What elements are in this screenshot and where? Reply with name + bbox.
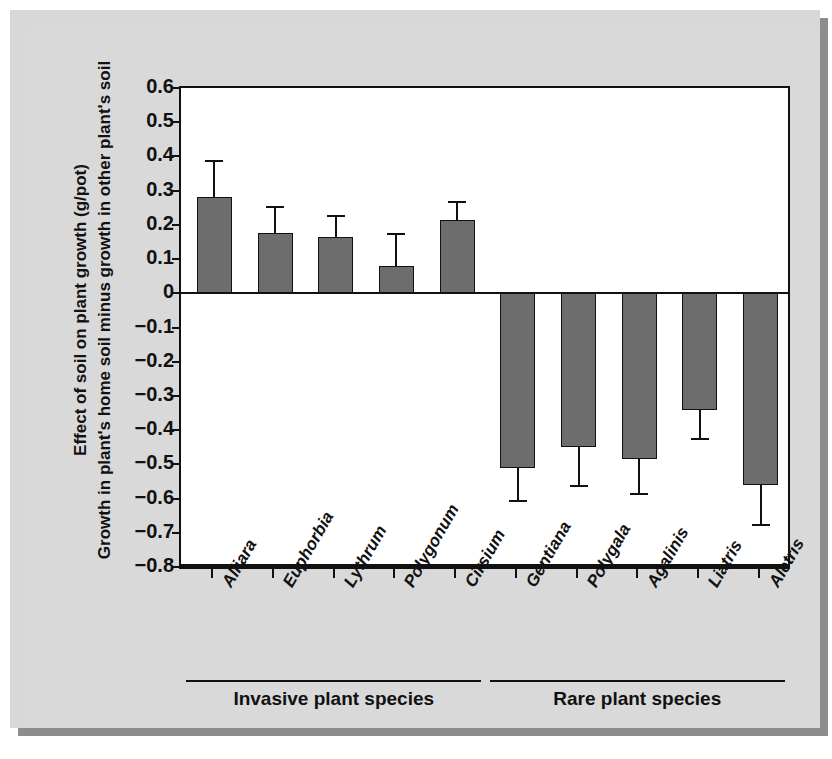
x-axis-tick <box>272 568 274 578</box>
x-axis-tick <box>454 568 456 578</box>
y-axis-title-line1: Effect of soil on plant growth (g/pot) <box>68 50 94 570</box>
bar-liatris <box>682 293 717 409</box>
error-bar-polygonum <box>395 233 397 266</box>
y-axis-tick-label: −0.4 <box>104 417 174 440</box>
error-cap-lythrum <box>327 215 345 217</box>
y-axis-tick-label: 0.6 <box>104 75 174 98</box>
bar-cirsium <box>440 220 475 294</box>
error-bar-agalinis <box>638 459 640 495</box>
y-axis-tick-label: −0.7 <box>104 520 174 543</box>
error-bar-euphorbia <box>274 206 276 233</box>
y-axis-tick-label: −0.2 <box>104 349 174 372</box>
bar-lythrum <box>318 237 353 293</box>
x-axis-tick <box>515 568 517 578</box>
bar-gentiana <box>500 293 535 467</box>
x-axis-tick <box>758 568 760 578</box>
y-axis-tick-label: 0.3 <box>104 178 174 201</box>
bar-euphorbia <box>258 233 293 293</box>
y-axis-tick-label: 0.4 <box>104 143 174 166</box>
error-cap-alliara <box>205 160 223 162</box>
x-axis-tick <box>697 568 699 578</box>
y-axis-tick-label: 0.5 <box>104 109 174 132</box>
error-cap-gentiana <box>509 500 527 502</box>
chart-figure: Effect of soil on plant growth (g/pot) G… <box>20 20 820 720</box>
x-axis-tick <box>393 568 395 578</box>
error-bar-gentiana <box>517 468 519 502</box>
group-label: Rare plant species <box>490 688 785 710</box>
x-axis-tick <box>333 568 335 578</box>
error-cap-polygala <box>570 485 588 487</box>
error-bar-liatris <box>699 410 701 441</box>
bar-polygala <box>561 293 596 447</box>
error-bar-cirsium <box>456 201 458 220</box>
bar-polygonum <box>379 266 414 293</box>
error-bar-aletris <box>760 485 762 526</box>
y-axis-tick-label: −0.3 <box>104 383 174 406</box>
error-cap-agalinis <box>630 493 648 495</box>
group-underline <box>186 680 481 682</box>
error-bar-alliara <box>213 160 215 198</box>
y-axis-tick-label: −0.5 <box>104 451 174 474</box>
y-axis-tick-label: −0.1 <box>104 315 174 338</box>
y-axis-tick-label: 0 <box>104 280 174 303</box>
y-axis-title: Effect of soil on plant growth (g/pot) G… <box>44 50 108 570</box>
bar-alliara <box>197 197 232 293</box>
group-underline <box>490 680 785 682</box>
x-axis-tick <box>211 568 213 578</box>
bar-agalinis <box>622 293 657 459</box>
figure-card: Effect of soil on plant growth (g/pot) G… <box>10 10 820 728</box>
y-axis-tick-label: 0.2 <box>104 212 174 235</box>
y-axis-tick-label: −0.8 <box>104 554 174 577</box>
error-cap-euphorbia <box>266 206 284 208</box>
error-bar-polygala <box>578 447 580 486</box>
y-axis-tick-label: −0.6 <box>104 486 174 509</box>
error-bar-lythrum <box>335 215 337 237</box>
error-cap-liatris <box>691 438 709 440</box>
plot-area: 0.60.50.40.30.20.10−0.1−0.2−0.3−0.4−0.5−… <box>179 86 790 569</box>
x-axis-tick <box>576 568 578 578</box>
error-cap-aletris <box>752 524 770 526</box>
group-label: Invasive plant species <box>186 688 481 710</box>
y-axis-tick-label: 0.1 <box>104 246 174 269</box>
error-cap-polygonum <box>387 233 405 235</box>
error-cap-cirsium <box>448 201 466 203</box>
figure-page: Effect of soil on plant growth (g/pot) G… <box>0 0 832 759</box>
x-axis-tick <box>636 568 638 578</box>
bar-aletris <box>743 293 778 485</box>
